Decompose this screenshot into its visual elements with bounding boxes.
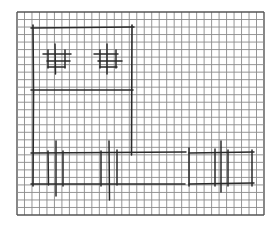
- sketch-canvas: [0, 0, 279, 225]
- columns: [48, 141, 228, 200]
- building-sketch: [31, 25, 254, 200]
- right-window: [94, 44, 122, 74]
